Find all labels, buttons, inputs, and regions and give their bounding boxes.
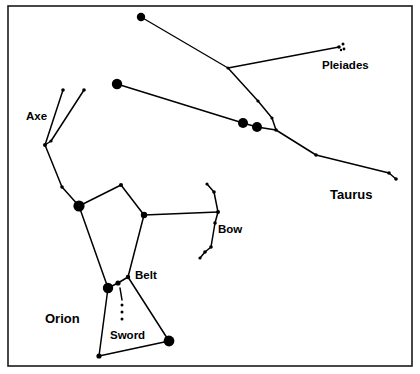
star-taurus-junction <box>274 128 278 132</box>
label-sword: Sword <box>110 329 145 341</box>
star-bow-lower-a <box>213 221 217 225</box>
star-bellatrix-upper <box>112 79 122 89</box>
star-pleiades-cluster-c <box>343 48 346 51</box>
star-bow-center <box>216 210 220 214</box>
star-aldebaran <box>252 122 262 132</box>
star-axe-tip-right <box>82 88 86 92</box>
star-bow-top-tip <box>205 182 208 185</box>
star-taurus-horn-low <box>270 116 273 119</box>
star-taurus-body-mid <box>314 153 318 157</box>
star-chart: PleiadesTaurusAxeBowBeltSwordOrion <box>0 0 420 374</box>
star-orion-foot-left <box>96 353 101 358</box>
constellation-diagram: PleiadesTaurusAxeBowBeltSwordOrion <box>0 0 420 374</box>
star-orion-club-top <box>137 13 145 21</box>
label-bow: Bow <box>218 223 242 235</box>
label-axe: Axe <box>26 110 47 122</box>
star-sword-mid <box>121 311 124 314</box>
star-rigel <box>164 336 175 347</box>
star-saiph-belt-bright <box>103 283 113 293</box>
star-alnitak <box>126 275 130 279</box>
star-pleiades-cluster-b <box>342 43 345 46</box>
star-bow-bottom-tip <box>198 256 201 259</box>
star-taurus-body-end <box>387 171 391 175</box>
star-bow-lower-b <box>209 245 213 249</box>
star-bow-upper-bend <box>212 190 216 194</box>
label-orion: Orion <box>45 311 80 326</box>
star-betelgeuse <box>73 200 84 211</box>
star-sword-upper <box>121 304 124 307</box>
star-axe-vertex <box>43 143 47 147</box>
star-taurus-horn-mid <box>256 99 259 102</box>
star-bellatrix-shoulder <box>141 212 147 218</box>
label-pleiades: Pleiades <box>322 59 369 71</box>
star-alnilam <box>115 280 120 285</box>
star-axe-inner-joint <box>49 139 52 142</box>
star-orion-shoulder-top <box>119 183 123 187</box>
label-taurus: Taurus <box>330 187 372 202</box>
star-pleiades-cluster-d <box>340 49 342 51</box>
star-bow-bottom-bend <box>203 250 207 254</box>
star-pleiades-cluster-a <box>337 45 341 49</box>
star-taurus-tail-tip <box>394 177 398 181</box>
star-axe-tip-left <box>61 88 65 92</box>
star-sword-lower <box>121 318 124 321</box>
label-belt: Belt <box>135 269 157 281</box>
star-hyades-bright-a <box>238 118 248 128</box>
star-taurus-horn-bend <box>226 66 229 69</box>
star-orion-arm-mid <box>60 185 64 189</box>
